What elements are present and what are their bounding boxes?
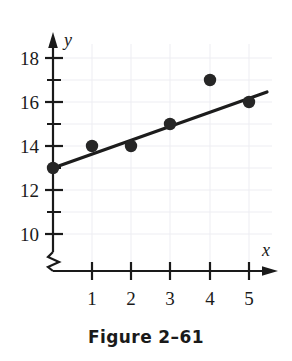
y-tick-label-18: 18 [20,48,39,69]
figure-container: 18 16 14 12 10 1 2 3 4 5 y x Figure 2–61 [0,0,292,361]
data-point [86,140,98,152]
data-point [164,118,176,130]
data-point [47,162,59,174]
x-tick-label-4: 4 [205,288,215,309]
x-tick-label-2: 2 [126,288,136,309]
y-tick-label-10: 10 [20,224,39,245]
y-tick-label-14: 14 [20,136,40,157]
x-axis-label: x [261,240,270,260]
data-point [125,140,137,152]
scatter-plot: 18 16 14 12 10 1 2 3 4 5 y x [0,0,292,361]
figure-caption: Figure 2–61 [0,327,292,347]
x-tick-label-5: 5 [244,288,254,309]
x-tick-label-1: 1 [87,288,97,309]
data-point [204,74,216,86]
y-tick-label-16: 16 [20,92,39,113]
y-axis-label: y [62,30,72,50]
data-point [243,96,255,108]
x-tick-label-3: 3 [165,288,175,309]
y-tick-label-12: 12 [20,180,39,201]
